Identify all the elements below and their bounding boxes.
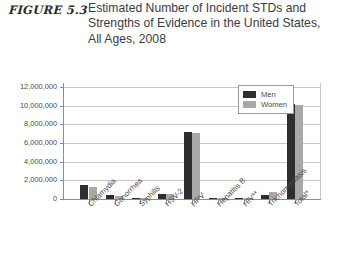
bar-men <box>106 195 114 199</box>
figure-title: Estimated Number of Incident STDs and St… <box>88 1 328 47</box>
bar-women <box>192 133 200 199</box>
y-axis-tick-label: 8,000,000 <box>1 120 57 128</box>
legend-entry-men: Men <box>243 90 287 99</box>
y-axis-tick-label: 10,000,000 <box>1 102 57 110</box>
legend-swatch-women-icon <box>243 101 256 108</box>
y-axis-tick-label: 12,000,000 <box>1 83 57 91</box>
legend-entry-women: Women <box>243 100 287 109</box>
figure-number: FIGURE 5.3 <box>9 3 89 17</box>
y-axis-tick-label: 0 <box>1 195 57 203</box>
bar-men <box>80 185 88 199</box>
bar-men <box>209 198 217 199</box>
legend-label-women: Women <box>261 101 287 109</box>
bar-chart: 12,000,00010,000,0008,000,0006,000,0004,… <box>0 78 349 270</box>
y-axis-tick-label: 2,000,000 <box>1 176 57 184</box>
bar-men <box>184 132 192 199</box>
bar-men <box>158 194 166 199</box>
bar-group <box>209 87 226 199</box>
y-axis-tick-label: 4,000,000 <box>1 158 57 166</box>
legend-swatch-men-icon <box>243 91 256 98</box>
bar-women <box>295 105 303 199</box>
legend-label-men: Men <box>261 91 276 99</box>
x-axis-category-labels: ChlamydiaGonorrheaSyphilisHSV-2HPVHepati… <box>63 202 349 270</box>
bar-group <box>184 87 201 199</box>
bar-men <box>235 198 243 199</box>
y-axis-tick-label: 6,000,000 <box>1 139 57 147</box>
figure-header: FIGURE 5.3 Estimated Number of Incident … <box>0 0 349 78</box>
bar-group <box>158 87 175 199</box>
bar-group <box>80 87 97 199</box>
chart-legend: Men Women <box>238 85 294 114</box>
